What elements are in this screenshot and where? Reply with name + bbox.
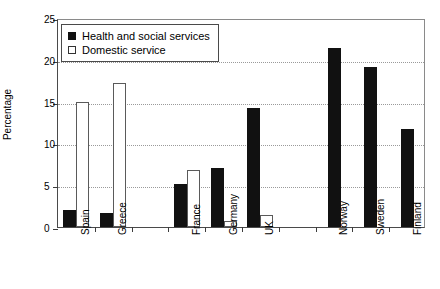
x-axis-tick-label: Germany <box>228 194 239 235</box>
y-axis-tick <box>53 229 58 230</box>
x-axis-tick-label: Norway <box>338 201 349 235</box>
x-axis-label-slot: Finland <box>380 235 434 251</box>
chart-legend: Health and social services Domestic serv… <box>61 24 219 62</box>
x-axis-tick <box>95 227 96 232</box>
bar <box>247 108 260 227</box>
legend-swatch-filled-icon <box>68 32 76 40</box>
x-axis-tick <box>352 227 353 232</box>
legend-swatch-open-icon <box>68 46 76 54</box>
bar <box>100 213 113 227</box>
y-axis-title: Percentage <box>0 0 16 228</box>
x-axis-tick-label: Sweden <box>375 199 386 235</box>
x-axis-tick <box>279 227 280 232</box>
bar-chart: Percentage 0510152025 SpainGreeceFranceG… <box>0 0 440 289</box>
x-axis-tick <box>389 227 390 232</box>
x-axis-tick-label: UK <box>264 221 275 235</box>
x-axis-tick <box>132 227 133 232</box>
legend-item-health: Health and social services <box>68 29 210 43</box>
x-axis-tick <box>205 227 206 232</box>
x-axis-tick-label: France <box>191 204 202 235</box>
bar <box>76 102 89 227</box>
x-axis-label-slot: Greece <box>85 235 139 251</box>
bar <box>174 184 187 227</box>
x-axis-tick-label: Spain <box>80 209 91 235</box>
x-axis-tick-label: Greece <box>117 202 128 235</box>
x-axis-tick-label: Finland <box>412 202 423 235</box>
legend-label-domestic: Domestic service <box>82 44 166 56</box>
x-axis-label-slot: UK <box>232 235 286 251</box>
legend-item-domestic: Domestic service <box>68 43 210 57</box>
legend-label-health: Health and social services <box>82 30 210 42</box>
x-axis-tick <box>316 227 317 232</box>
y-axis-title-label: Percentage <box>3 88 14 139</box>
x-axis-tick <box>242 227 243 232</box>
bar <box>211 168 224 227</box>
x-axis-tick <box>168 227 169 232</box>
bar <box>63 210 76 227</box>
y-axis-tick <box>53 187 58 188</box>
